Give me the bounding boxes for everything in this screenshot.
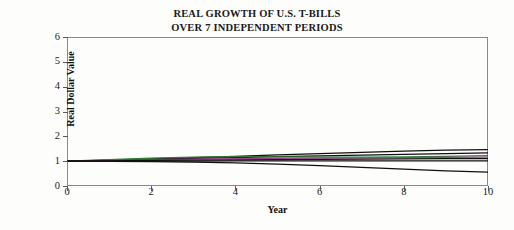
y-tick-label: 3	[34, 106, 60, 117]
plot-area: Real Dollar Value Year 0123456 0246810	[67, 37, 488, 186]
y-tick-mark	[63, 161, 68, 162]
chart-title-line-2: OVER 7 INDEPENDENT PERIODS	[0, 21, 514, 35]
y-tick-label: 2	[34, 131, 60, 142]
y-tick-mark	[63, 87, 68, 88]
y-tick-label: 6	[34, 32, 60, 43]
y-tick-mark	[63, 62, 68, 63]
chart-title-line-1: REAL GROWTH OF U.S. T-BILLS	[0, 7, 514, 21]
x-tick-mark	[151, 186, 152, 191]
y-tick-label: 5	[34, 56, 60, 67]
chart-title: REAL GROWTH OF U.S. T-BILLS OVER 7 INDEP…	[0, 7, 514, 34]
y-tick-mark	[63, 136, 68, 137]
x-tick-mark	[67, 186, 68, 191]
x-tick-mark	[235, 186, 236, 191]
x-tick-mark	[488, 186, 489, 191]
y-tick-mark	[63, 37, 68, 38]
series-lines	[67, 37, 488, 186]
x-axis-label: Year	[67, 204, 488, 215]
x-tick-mark	[404, 186, 405, 191]
y-tick-mark	[63, 112, 68, 113]
x-tick-mark	[320, 186, 321, 191]
y-tick-label: 1	[34, 156, 60, 167]
series-line	[67, 161, 488, 172]
y-tick-label: 4	[34, 81, 60, 92]
chart-figure: REAL GROWTH OF U.S. T-BILLS OVER 7 INDEP…	[0, 0, 514, 230]
y-axis-label: Real Dollar Value	[65, 29, 76, 149]
